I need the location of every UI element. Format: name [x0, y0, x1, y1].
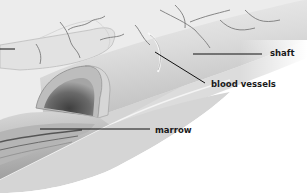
- label-marrow: marrow: [155, 126, 192, 135]
- bone-diagram: shaft blood vessels marrow: [0, 0, 307, 193]
- label-shaft: shaft: [270, 49, 295, 58]
- label-blood-vessels: blood vessels: [211, 80, 276, 89]
- right-fade: [240, 40, 307, 193]
- bone-illustration: [0, 0, 307, 193]
